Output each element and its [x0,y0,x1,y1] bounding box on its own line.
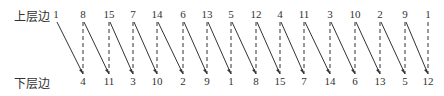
bottom-node: 4 [80,75,86,87]
top-node: 5 [228,8,234,20]
bottom-node: 1 [228,75,234,87]
top-node: 8 [80,8,86,20]
bottom-node: 9 [204,75,210,87]
top-node: 3 [327,8,333,20]
top-node: 1 [53,8,59,20]
solid-edge [184,22,207,74]
bottom-node: 6 [352,75,358,87]
bottom-node: 8 [253,75,259,87]
top-node: 4 [277,8,283,20]
solid-edge [356,22,380,74]
top-node: 14 [152,8,163,20]
bottom-node: 10 [152,75,163,87]
bottom-node: 14 [325,75,336,87]
solid-edge [257,22,280,74]
solid-edge [381,22,405,74]
bottom-node: 13 [375,75,386,87]
solid-edge [305,22,330,74]
solid-edge [406,22,428,74]
top-node: 2 [377,8,383,20]
bottom-node: 7 [301,75,307,87]
top-node: 15 [104,8,115,20]
solid-edge [110,22,133,74]
top-node: 11 [299,8,310,20]
solid-edge [331,22,355,74]
top-node: 9 [402,8,408,20]
solid-edge [134,22,157,74]
top-node: 1 [425,8,431,20]
bottom-node: 5 [402,75,408,87]
top-node: 6 [180,8,186,20]
solid-edge [281,22,304,74]
bottom-node: 2 [180,75,186,87]
bottom-node: 15 [275,75,286,87]
solid-edge [57,22,83,74]
solid-edge [158,22,183,74]
top-node: 10 [350,8,361,20]
bottom-node: 12 [423,75,434,87]
top-node: 12 [251,8,262,20]
bottom-node: 3 [130,75,136,87]
solid-edge [84,22,109,74]
top-node: 13 [202,8,213,20]
solid-edge [208,22,231,74]
bottom-node: 11 [104,75,115,87]
solid-edge [232,22,256,74]
top-node: 7 [130,8,136,20]
